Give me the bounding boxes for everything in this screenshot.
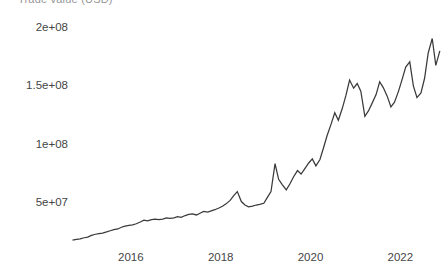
data-series-line: [72, 39, 439, 241]
plot-area: [0, 0, 445, 280]
line-chart-figure: Trade value (USD) 5e+071e+081.5e+082e+08…: [0, 0, 445, 280]
